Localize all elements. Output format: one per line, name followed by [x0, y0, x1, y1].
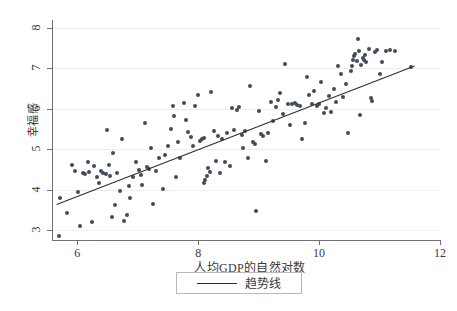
x-tick-label: 12	[428, 246, 452, 261]
y-tick-label: 5	[29, 139, 44, 159]
y-tick-label: 3	[29, 219, 44, 239]
y-tick-label: 6	[29, 98, 44, 118]
y-tick-label: 4	[29, 179, 44, 199]
x-tick-mark	[319, 241, 320, 245]
x-tick-mark	[77, 241, 78, 245]
chart-legend: 趋势线	[176, 272, 302, 294]
x-tick-mark	[198, 241, 199, 245]
x-axis-line	[52, 240, 441, 241]
scatter-chart-figure: 幸福感 345678 681012 人均GDP的自然对数 趋势线	[0, 0, 457, 311]
y-tick-label: 8	[29, 18, 44, 38]
y-tick-label: 7	[29, 58, 44, 78]
x-tick-label: 6	[65, 246, 89, 261]
legend-label-trendline: 趋势线	[245, 274, 282, 292]
legend-line-swatch	[197, 283, 237, 284]
plot-area	[53, 22, 440, 240]
x-tick-mark	[440, 241, 441, 245]
trendline	[53, 22, 440, 240]
